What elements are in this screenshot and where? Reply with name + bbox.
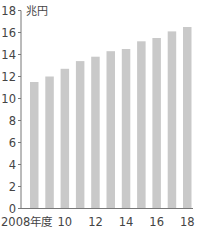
bar-2018	[183, 27, 192, 209]
bar-2013	[107, 51, 116, 208]
bar-2009	[45, 77, 54, 209]
y-tick-label: 2	[9, 180, 16, 194]
x-tick-label: 12	[88, 215, 103, 229]
bar-chart: 024681012141618 2008年度1012141618 兆円	[0, 0, 198, 231]
y-tick-label: 6	[9, 136, 16, 150]
x-tick-label: 16	[149, 215, 164, 229]
bars	[30, 27, 192, 209]
bar-2015	[137, 41, 146, 208]
bar-2011	[76, 61, 85, 208]
bar-2016	[152, 38, 161, 209]
y-axis: 024681012141618	[1, 4, 21, 216]
bar-2017	[168, 31, 177, 208]
x-tick-label: 2008年度	[1, 215, 53, 229]
bar-2014	[122, 49, 131, 209]
bar-2010	[61, 69, 70, 209]
bar-2008年度	[30, 82, 39, 209]
y-tick-label: 0	[9, 202, 16, 216]
y-tick-label: 10	[1, 92, 16, 106]
bar-2012	[91, 57, 100, 209]
y-tick-label: 14	[1, 48, 16, 62]
unit-label: 兆円	[26, 5, 48, 18]
y-tick-label: 12	[1, 70, 16, 84]
x-axis: 2008年度1012141618	[1, 209, 195, 230]
x-tick-label: 10	[58, 215, 73, 229]
y-tick-label: 4	[9, 158, 16, 172]
y-tick-label: 8	[9, 114, 16, 128]
x-tick-label: 18	[180, 215, 195, 229]
y-tick-label: 16	[1, 26, 16, 40]
x-tick-label: 14	[119, 215, 134, 229]
y-tick-label: 18	[1, 4, 16, 18]
